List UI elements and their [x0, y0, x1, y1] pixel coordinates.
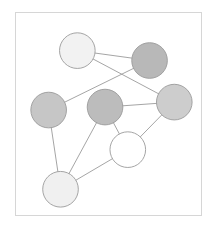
graph-node[interactable]	[60, 33, 96, 69]
graph-node[interactable]	[132, 43, 168, 79]
graph-canvas	[16, 13, 201, 215]
graph-node[interactable]	[43, 171, 79, 207]
figure-root	[0, 0, 214, 229]
graph-node[interactable]	[87, 89, 123, 125]
node-layer	[31, 33, 192, 207]
graph-node[interactable]	[110, 132, 146, 168]
graph-node[interactable]	[31, 92, 67, 128]
graph-frame	[15, 12, 202, 216]
graph-node[interactable]	[156, 84, 192, 120]
